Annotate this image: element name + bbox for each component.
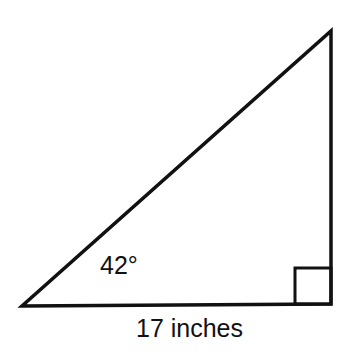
- triangle-figure: [0, 0, 350, 362]
- angle-label: 42°: [100, 251, 138, 280]
- base-length-label: 17 inches: [136, 314, 243, 343]
- right-angle-marker: [295, 268, 331, 304]
- triangle-shape: [22, 31, 331, 306]
- diagram-canvas: 42° 17 inches: [0, 0, 350, 362]
